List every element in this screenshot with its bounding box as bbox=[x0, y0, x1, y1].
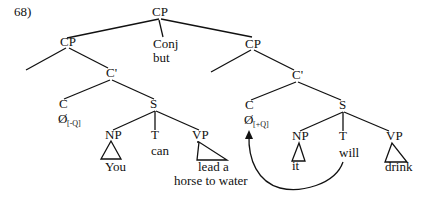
edge-leftcbar-s bbox=[112, 80, 154, 99]
right-np-word: it bbox=[292, 158, 300, 173]
left-t-label: T bbox=[151, 127, 159, 142]
left-t-word: can bbox=[151, 143, 170, 158]
left-c-feature: [-Q] bbox=[67, 119, 81, 128]
root-cp-label: CP bbox=[152, 4, 168, 19]
edge-root-rightcp bbox=[161, 19, 252, 37]
left-c-null: Ø bbox=[58, 111, 67, 126]
edge-root-conj bbox=[159, 20, 163, 37]
edge-leftcbar-c bbox=[64, 80, 110, 99]
arrowhead-icon bbox=[245, 130, 253, 139]
left-vp-line1: lead a bbox=[198, 159, 229, 174]
syntax-tree: 68) CP Conj but CP C' C Ø [-Q] S NP You … bbox=[0, 0, 423, 200]
right-t-word: will bbox=[339, 145, 360, 160]
right-c-feature: [+Q] bbox=[253, 120, 269, 129]
edge-leftcp-spec bbox=[26, 48, 66, 70]
left-vp-line2: horse to water bbox=[174, 173, 248, 188]
left-vp-label: VP bbox=[192, 127, 209, 142]
example-number: 68) bbox=[14, 4, 31, 19]
edge-leftcp-cbar bbox=[69, 48, 108, 68]
right-vp-word: drink bbox=[385, 159, 413, 174]
edge-rightcbar-s bbox=[298, 82, 341, 100]
right-s-label: S bbox=[339, 97, 346, 112]
right-cp-label: CP bbox=[245, 36, 261, 51]
conj-word: but bbox=[153, 50, 170, 65]
left-vp-triangle bbox=[197, 142, 227, 160]
left-np-triangle bbox=[101, 141, 121, 159]
edge-rights-vp bbox=[344, 112, 389, 131]
edge-rightcbar-c bbox=[251, 82, 296, 100]
edge-root-leftcp bbox=[67, 19, 159, 38]
edge-rightcp-cbar bbox=[254, 50, 294, 70]
right-cbar-label: C' bbox=[292, 67, 303, 82]
left-s-label: S bbox=[150, 96, 157, 111]
right-np-label: NP bbox=[292, 128, 309, 143]
left-np-label: NP bbox=[105, 127, 122, 142]
right-t-label: T bbox=[339, 128, 347, 143]
left-cp-label: CP bbox=[60, 34, 76, 49]
conj-label: Conj bbox=[153, 36, 178, 51]
right-c-null: Ø bbox=[244, 112, 253, 127]
left-np-word: You bbox=[105, 159, 127, 174]
right-vp-label: VP bbox=[386, 128, 403, 143]
right-c-label: C bbox=[245, 97, 254, 112]
left-cbar-label: C' bbox=[106, 65, 117, 80]
edge-rightcp-spec bbox=[211, 50, 251, 72]
left-c-label: C bbox=[59, 96, 68, 111]
